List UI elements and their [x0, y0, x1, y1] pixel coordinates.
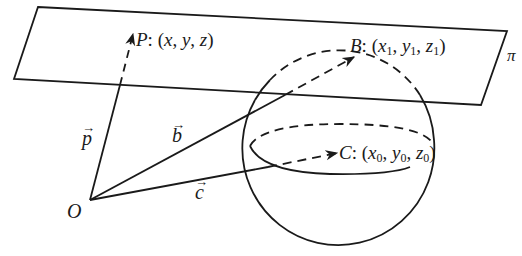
punct: ) [207, 29, 213, 50]
punct: , [382, 142, 392, 163]
origin-label: O [67, 201, 81, 221]
point-p-label: P: (x, y, z) [136, 30, 214, 49]
punct: ) [429, 142, 435, 163]
point-c-label: C: (x0, y0, z0) [339, 143, 436, 164]
diagram-canvas: P: (x, y, z) B: (x1, y1, z1) C: (x0, y0,… [0, 0, 522, 256]
vector-p-solid [90, 85, 120, 200]
punct: : ( [352, 142, 368, 163]
vector-arrow-icon: → [195, 175, 208, 188]
vector-b-solid [90, 95, 285, 200]
punct: , [406, 142, 416, 163]
punct: , [190, 29, 200, 50]
vector-p-label: →p [82, 128, 92, 148]
vector-arrow-icon: → [82, 121, 95, 134]
plane-pi-label: π [507, 47, 516, 64]
punct: : ( [362, 35, 378, 56]
point-b-name: B [350, 35, 362, 56]
punct: : ( [148, 29, 164, 50]
point-p-name: P [136, 29, 148, 50]
vector-c-dashed [268, 153, 337, 167]
vector-arrow-icon: → [172, 118, 185, 131]
punct: ) [439, 35, 445, 56]
point-b-label: B: (x1, y1, z1) [350, 36, 446, 57]
point-c-name: C [339, 142, 352, 163]
vector-c-solid [90, 167, 268, 200]
punct: , [392, 35, 402, 56]
punct: , [416, 35, 426, 56]
sphere-outline-solid [242, 95, 434, 245]
vector-p-dashed [120, 34, 133, 85]
sphere-outline-solid-left [255, 80, 270, 100]
vector-b-dashed [285, 57, 354, 95]
vector-c-label: →c [195, 182, 204, 202]
vector-b-label: →b [172, 125, 182, 145]
punct: , [172, 29, 182, 50]
